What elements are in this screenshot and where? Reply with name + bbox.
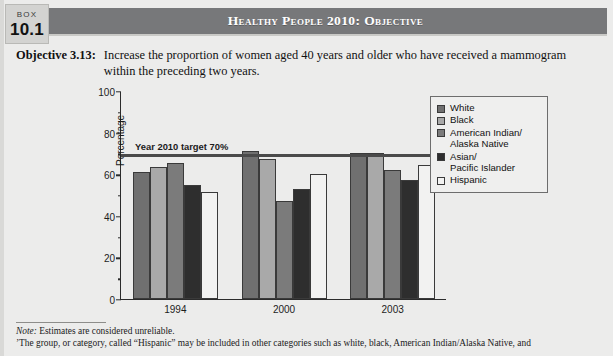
legend-item: Hispanic (437, 174, 541, 185)
legend-swatch-icon (437, 105, 445, 113)
legend-item: White (437, 102, 541, 113)
target-line (121, 154, 468, 156)
legend-swatch-icon (437, 153, 445, 161)
legend-swatch-icon (437, 177, 445, 185)
footnote-1: Note: Estimates are considered unreliabl… (16, 326, 603, 338)
bar (310, 174, 327, 299)
footnote-rule (16, 322, 106, 323)
bar (350, 153, 367, 299)
header-rule (44, 34, 607, 36)
bar (184, 185, 201, 299)
bar (133, 172, 150, 299)
footnote-2: ’The group, or category, called “Hispani… (16, 338, 603, 350)
bar (201, 192, 218, 299)
x-tick-label: 1994 (164, 304, 186, 315)
objective-label: Objective 3.13: (16, 48, 104, 63)
bar (242, 151, 259, 299)
bar (259, 159, 276, 299)
bar (276, 201, 293, 299)
x-tick-label: 2000 (273, 304, 295, 315)
legend-item: Asian/Pacific Islander (437, 151, 541, 174)
target-line-label: Year 2010 target 70% (135, 141, 228, 152)
legend-item: American Indian/Alaska Native (437, 127, 541, 150)
legend-label: Black (450, 114, 473, 125)
legend-item: Black (437, 114, 541, 125)
box-tag-number: 10.1 (10, 21, 44, 38)
legend-label: American Indian/Alaska Native (450, 127, 522, 150)
page-left-edge (0, 0, 4, 356)
objective-text: Increase the proportion of women aged 40… (104, 48, 582, 79)
bar (401, 180, 418, 299)
plot-area: Percentage 020406080100 199420002003 Yea… (120, 92, 446, 300)
bar-series-container (121, 92, 446, 299)
bar (167, 163, 184, 299)
legend-label: White (450, 102, 475, 113)
x-tick-label: 2003 (382, 304, 404, 315)
footnote-1-prefix: Note: (16, 326, 37, 336)
chart: Percentage 020406080100 199420002003 Yea… (58, 92, 558, 310)
bar (367, 153, 384, 299)
bar (384, 170, 401, 299)
footnote-1-text: Estimates are considered unreliable. (37, 326, 175, 336)
legend-swatch-icon (437, 117, 445, 125)
legend-swatch-icon (437, 129, 445, 137)
y-tick-mark (116, 299, 121, 300)
legend-items: WhiteBlackAmerican Indian/Alaska NativeA… (437, 102, 541, 186)
box-figure-page: Healthy People 2010: Objective BOX 10.1 … (0, 0, 613, 356)
bar-group (242, 92, 327, 299)
bar-group (350, 92, 435, 299)
legend-label: Asian/Pacific Islander (450, 151, 515, 174)
bar (150, 167, 167, 299)
footnotes: Note: Estimates are considered unreliabl… (16, 326, 603, 349)
legend-label: Hispanic (450, 174, 487, 185)
chart-legend: WhiteBlackAmerican Indian/Alaska NativeA… (430, 96, 548, 193)
box-number-tag: BOX 10.1 (5, 4, 49, 44)
box-tag-word: BOX (17, 11, 38, 19)
bar-group (133, 92, 218, 299)
header-title: Healthy People 2010: Objective (44, 8, 607, 34)
objective-row: Objective 3.13: Increase the proportion … (16, 48, 599, 79)
bar (293, 189, 310, 299)
